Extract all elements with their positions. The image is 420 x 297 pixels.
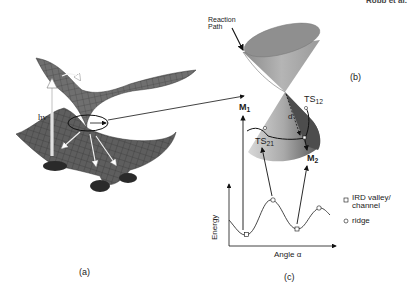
upper-cone [241, 16, 324, 92]
reaction-path-arrow [232, 28, 243, 50]
x-axis-label: Angle α [274, 251, 301, 259]
y-axis-label: Energy [211, 215, 219, 240]
running-head: Robb et al. [366, 0, 407, 5]
legend-circle-icon [344, 219, 348, 223]
m1-main: M [239, 102, 247, 112]
hv-label: hv [38, 113, 47, 122]
legend-ridge: ridge [352, 217, 370, 225]
m1-label: M1 [239, 103, 250, 114]
ts21-main: TS [255, 136, 267, 146]
panel-b-label: (b) [350, 73, 361, 82]
ts21-sub: 21 [267, 140, 275, 147]
m1-sub: 1 [247, 106, 251, 113]
panel-c-label: (c) [284, 273, 295, 282]
m2-main: M [307, 153, 315, 163]
figure-graphics [0, 0, 420, 297]
legend-valley: IRD valley/ channel [352, 194, 391, 211]
reaction-path-line1: Reaction [208, 16, 236, 23]
m2-label: M2 [307, 154, 318, 165]
reaction-path-line2: Path [208, 23, 236, 30]
d-label: d [288, 113, 292, 121]
reaction-path-label: Reaction Path [208, 16, 236, 31]
legend-square-icon [344, 198, 348, 202]
ts12-main: TS [304, 94, 316, 104]
energy-curve [229, 200, 330, 235]
m2-sub: 2 [315, 157, 319, 164]
ts12-label: TS12 [304, 95, 323, 106]
legend-valley-line2: channel [352, 202, 391, 210]
panel-a-label: (a) [79, 268, 90, 277]
ts12-sub: 12 [316, 98, 324, 105]
ts21-label: TS21 [255, 137, 274, 148]
